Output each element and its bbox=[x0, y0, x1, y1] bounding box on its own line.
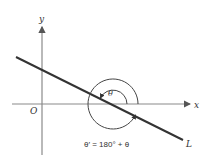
diagram-canvas: y x O L θ θ′ = 180° + θ bbox=[0, 0, 208, 163]
x-axis-label: x bbox=[194, 100, 199, 110]
origin-label: O bbox=[30, 106, 38, 116]
theta-prime-equation: θ′ = 180° + θ bbox=[84, 140, 130, 149]
theta-label: θ bbox=[108, 89, 113, 98]
line-l bbox=[16, 57, 183, 140]
y-axis-label: y bbox=[38, 14, 45, 24]
diagram-svg: y x O L θ θ′ = 180° + θ bbox=[0, 0, 208, 163]
line-label: L bbox=[185, 139, 192, 149]
